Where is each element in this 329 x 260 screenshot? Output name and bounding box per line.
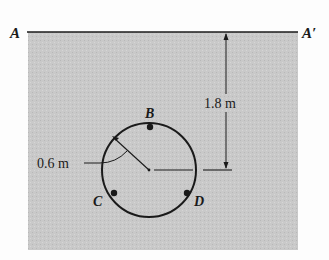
point-c-marker <box>111 190 117 196</box>
diagram-canvas: A A′ 1.8 m 0.6 m B C D <box>0 0 329 260</box>
cross-section-figure: A A′ 1.8 m 0.6 m B C D <box>0 0 329 260</box>
label-c: C <box>93 194 103 209</box>
soil-region <box>28 32 298 250</box>
point-b-marker <box>147 124 153 130</box>
label-a: A <box>9 25 20 41</box>
depth-label: 1.8 m <box>204 96 236 111</box>
point-d-marker <box>184 190 190 196</box>
label-b: B <box>144 106 154 121</box>
radius-label: 0.6 m <box>37 156 69 171</box>
label-d: D <box>193 194 204 209</box>
label-a-prime: A′ <box>301 25 316 41</box>
